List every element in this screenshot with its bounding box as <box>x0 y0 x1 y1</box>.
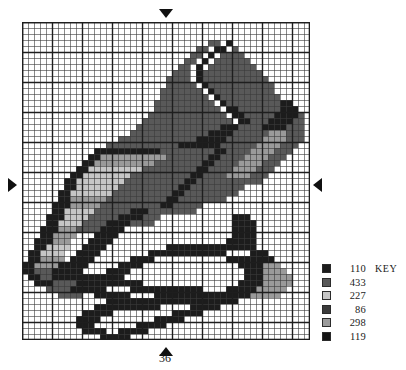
legend-row: 119 <box>322 330 402 344</box>
legend-thread-code: 86 <box>336 304 366 315</box>
legend-thread-code: 433 <box>336 277 366 288</box>
pattern-canvas[interactable] <box>22 22 310 340</box>
legend-color-swatch <box>322 332 331 341</box>
center-marker-left-icon <box>8 178 17 192</box>
legend-thread-code: 110 <box>336 263 366 274</box>
cross-stitch-chart-page: 11043322786298119KEY 36 <box>0 0 406 370</box>
pattern-grid[interactable] <box>22 22 310 340</box>
legend-color-swatch <box>322 278 331 287</box>
legend-thread-code: 298 <box>336 317 366 328</box>
center-marker-right-icon <box>313 178 322 192</box>
legend-color-swatch <box>322 305 331 314</box>
legend-row: 433 <box>322 276 402 290</box>
legend-row: 227 <box>322 289 402 303</box>
legend-color-swatch <box>322 264 331 273</box>
legend-title: KEY <box>375 262 397 276</box>
legend-row: 86 <box>322 303 402 317</box>
page-number: 36 <box>0 351 330 366</box>
legend-color-swatch <box>322 291 331 300</box>
legend-row: 298 <box>322 316 402 330</box>
legend-thread-code: 227 <box>336 290 366 301</box>
legend-color-swatch <box>322 318 331 327</box>
center-marker-top-icon <box>159 9 173 18</box>
legend: 11043322786298119KEY <box>322 262 402 343</box>
legend-thread-code: 119 <box>336 331 366 342</box>
pattern-cells-canvas-wrapper <box>22 22 310 340</box>
